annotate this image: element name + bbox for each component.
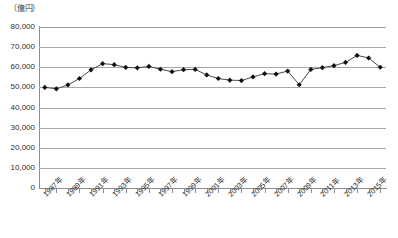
data-point-marker [146, 64, 151, 69]
data-point-marker [227, 78, 232, 83]
y-tick-label: 10,000 [11, 164, 35, 172]
plot-area [39, 27, 386, 188]
y-tick-label: 40,000 [11, 104, 35, 112]
data-point-marker [169, 69, 174, 74]
data-point-marker [135, 65, 140, 70]
data-point-marker [274, 71, 279, 76]
data-point-marker [354, 53, 359, 58]
y-tick-label: 80,000 [11, 23, 35, 31]
y-axis-tick-labels: 010,00020,00030,00040,00050,00060,00070,… [0, 21, 38, 189]
data-point-marker [42, 85, 47, 90]
y-tick-label: 0 [31, 184, 35, 192]
data-point-marker [123, 65, 128, 70]
data-point-marker [250, 74, 255, 79]
x-axis-tick-labels: 1987年1989年1991年1993年1995年1997年1999年2001年… [0, 193, 398, 238]
data-point-marker [262, 71, 267, 76]
data-point-marker [343, 60, 348, 65]
data-point-marker [112, 62, 117, 67]
data-point-marker [204, 72, 209, 77]
series-line-chart [39, 27, 386, 188]
y-tick-label: 70,000 [11, 43, 35, 51]
data-point-marker [181, 67, 186, 72]
data-point-marker [216, 76, 221, 81]
series-line [45, 55, 380, 88]
y-tick-label: 50,000 [11, 83, 35, 91]
data-point-marker [239, 78, 244, 83]
y-axis-unit-label: （億円） [9, 2, 40, 13]
data-point-marker [331, 63, 336, 68]
data-point-marker [54, 86, 59, 91]
y-tick-label: 20,000 [11, 144, 35, 152]
data-point-marker [65, 82, 70, 87]
line-chart: （億円） 010,00020,00030,00040,00050,00060,0… [0, 0, 398, 238]
data-point-marker [100, 61, 105, 66]
y-tick-label: 60,000 [11, 63, 35, 71]
data-point-marker [193, 67, 198, 72]
y-tick-label: 30,000 [11, 124, 35, 132]
data-point-marker [158, 67, 163, 72]
data-point-marker [320, 65, 325, 70]
